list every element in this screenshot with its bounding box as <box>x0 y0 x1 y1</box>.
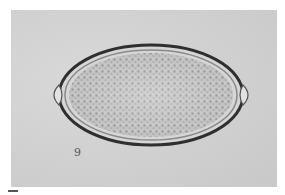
egg-illustration: 9 <box>11 10 277 187</box>
caption-mark <box>8 190 18 192</box>
micrograph-photo: 9 <box>11 10 277 187</box>
annotation-label: 9 <box>74 146 81 159</box>
